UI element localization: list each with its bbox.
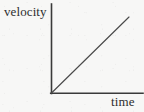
- x-axis-label: time: [111, 95, 135, 109]
- data-line-velocity: [52, 17, 130, 93]
- y-axis-label: velocity: [4, 5, 47, 19]
- velocity-time-graph: velocity time: [0, 0, 144, 112]
